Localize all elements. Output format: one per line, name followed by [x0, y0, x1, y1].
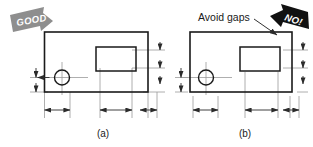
- panel-b-group: (b): [175, 32, 308, 139]
- figure-canvas: (a): [0, 0, 313, 147]
- panel-b-extension-lines: [175, 50, 308, 118]
- good-badge: GOOD: [10, 7, 53, 32]
- panel-a-extension-lines: [30, 50, 165, 118]
- panel-b-outer-rectangle: [190, 32, 292, 92]
- technical-drawing-figure: (a): [0, 0, 313, 147]
- panel-a-group: (a): [30, 32, 165, 139]
- panel-a-caption: (a): [97, 128, 109, 139]
- panel-a-vertical-dimensions: [36, 68, 50, 92]
- panel-a-center-lines: [38, 62, 88, 95]
- panel-a-cutout-rectangle: [96, 47, 136, 71]
- panel-b-cutout-rectangle: [240, 47, 280, 71]
- panel-b-caption: (b): [239, 128, 251, 139]
- no-badge: NO!: [270, 4, 309, 29]
- avoid-gaps-label: Avoid gaps: [198, 11, 250, 23]
